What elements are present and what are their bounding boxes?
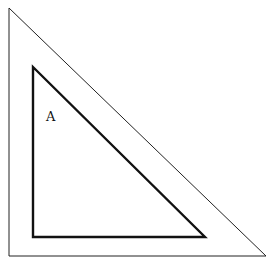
diagram-canvas: A xyxy=(0,0,275,264)
outer-triangle xyxy=(9,8,266,256)
region-label-a: A xyxy=(45,109,56,124)
inner-triangle xyxy=(33,67,205,237)
